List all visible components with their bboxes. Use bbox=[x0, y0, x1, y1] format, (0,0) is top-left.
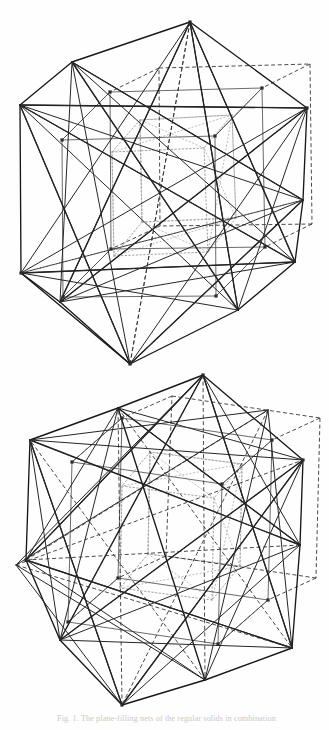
lower-cube-visible-edges bbox=[68, 418, 272, 644]
cube-hidden-edge bbox=[310, 64, 312, 224]
lower-inner-dodecahedron-dotted bbox=[120, 452, 242, 600]
cube-hidden-edge bbox=[166, 556, 316, 578]
icosahedron-edge bbox=[20, 105, 21, 273]
vertex-marker bbox=[128, 362, 131, 365]
icosahedron-chord bbox=[16, 565, 205, 680]
icosahedron-chord bbox=[72, 62, 303, 200]
vertex-marker bbox=[120, 416, 123, 419]
inner-chord bbox=[140, 120, 204, 148]
vertex-marker bbox=[260, 86, 263, 89]
lower-polyhedron-svg bbox=[0, 368, 329, 713]
inner-solid-edge bbox=[112, 120, 140, 152]
inner-solid-edge bbox=[114, 222, 142, 256]
inner-solid-edge bbox=[212, 498, 214, 600]
vertex-marker bbox=[108, 90, 111, 93]
figure-caption: Fig. 1. The plane-filling nets of the re… bbox=[14, 714, 319, 724]
icosahedron-chord bbox=[20, 105, 307, 108]
icosahedron-edge bbox=[300, 460, 303, 545]
vertex-marker bbox=[213, 134, 216, 137]
inner-chord bbox=[214, 498, 240, 566]
icosahedron-hidden-chord bbox=[122, 410, 268, 705]
vertex-marker bbox=[270, 438, 273, 441]
cube-visible-edge bbox=[62, 136, 215, 140]
cube-hidden-edge bbox=[159, 68, 160, 226]
inner-chord bbox=[212, 464, 242, 600]
icosahedron-edge bbox=[130, 310, 238, 364]
icosahedron-edge bbox=[21, 273, 130, 364]
icosahedron-edge bbox=[72, 22, 190, 62]
inner-solid-edge bbox=[204, 148, 208, 252]
cube-visible-edge bbox=[110, 88, 262, 92]
vertex-marker bbox=[220, 482, 223, 485]
vertex-marker bbox=[216, 642, 219, 645]
icosahedron-chord bbox=[26, 375, 203, 560]
vertex-marker bbox=[60, 138, 63, 141]
vertex-marker bbox=[109, 247, 112, 250]
icosahedron-edge bbox=[26, 440, 30, 560]
icosahedron-chord bbox=[118, 408, 300, 545]
upper-polyhedron-svg bbox=[0, 0, 329, 368]
cube-hidden-edge bbox=[272, 418, 320, 440]
icosahedron-chord bbox=[26, 560, 205, 680]
icosahedron-chord bbox=[122, 545, 300, 705]
vertex-marker bbox=[305, 106, 308, 109]
icosahedron-chord bbox=[238, 108, 307, 310]
icosahedron-chord bbox=[60, 62, 72, 302]
vertex-marker bbox=[66, 620, 69, 623]
cube-hidden-edge bbox=[172, 396, 320, 418]
figure-page: Fig. 1. The plane-filling nets of the re… bbox=[0, 0, 329, 730]
vertex-marker bbox=[301, 458, 304, 461]
lower-icosahedron-edges bbox=[16, 375, 303, 705]
inner-chord bbox=[140, 120, 142, 222]
icosahedron-chord bbox=[72, 62, 295, 262]
icosahedron-hidden-chord bbox=[118, 408, 292, 648]
vertex-marker bbox=[266, 598, 269, 601]
vertex-marker bbox=[24, 558, 27, 561]
cube-hidden-edge bbox=[160, 224, 312, 226]
cube-visible-edge bbox=[62, 140, 63, 297]
vertex-marker bbox=[201, 373, 204, 376]
lower-cube-hidden-edges bbox=[118, 396, 320, 600]
cube-hidden-edge bbox=[159, 64, 310, 68]
icosahedron-edge bbox=[292, 545, 300, 648]
vertex-marker bbox=[188, 20, 191, 23]
vertex-marker bbox=[214, 294, 217, 297]
vertex-marker bbox=[120, 703, 123, 706]
icosahedron-edge bbox=[20, 62, 72, 105]
icosahedron-edge bbox=[122, 680, 205, 705]
figure-caption-strip: Fig. 1. The plane-filling nets of the re… bbox=[0, 714, 329, 730]
icosahedron-edge bbox=[60, 375, 203, 640]
icosahedron-chord bbox=[20, 105, 238, 310]
lower-polyhedron-figure bbox=[0, 368, 329, 713]
icosahedron-chord bbox=[60, 22, 190, 302]
icosahedron-edge bbox=[60, 640, 122, 705]
icosahedron-hidden-chord bbox=[130, 22, 190, 364]
icosahedron-edge bbox=[190, 22, 307, 108]
icosahedron-chord bbox=[203, 375, 300, 545]
cube-visible-edge bbox=[63, 296, 216, 297]
vertex-marker bbox=[116, 576, 119, 579]
icosahedron-edge bbox=[205, 648, 292, 680]
vertex-marker bbox=[263, 245, 266, 248]
icosahedron-chord bbox=[30, 410, 268, 440]
inner-chord bbox=[240, 464, 242, 566]
icosahedron-chord bbox=[130, 200, 303, 364]
upper-polyhedron-figure bbox=[0, 0, 329, 368]
upper-cube-hidden-edges bbox=[110, 64, 312, 249]
icosahedron-chord bbox=[21, 273, 238, 310]
icosahedron-edge bbox=[203, 375, 303, 460]
icosahedron-edge bbox=[295, 200, 303, 262]
icosahedron-edge bbox=[118, 375, 203, 408]
cube-visible-edge bbox=[262, 88, 265, 247]
icosahedron-chord bbox=[60, 640, 292, 648]
vertex-marker bbox=[61, 295, 64, 298]
icosahedron-edge bbox=[30, 408, 118, 440]
cube-hidden-edge bbox=[316, 418, 320, 578]
cube-hidden-edge bbox=[262, 64, 310, 88]
cube-hidden-edge bbox=[265, 224, 312, 247]
icosahedron-edge bbox=[303, 108, 307, 200]
vertex-marker bbox=[70, 460, 73, 463]
cube-visible-edge bbox=[110, 92, 111, 249]
inner-solid-edge bbox=[114, 252, 208, 256]
vertex-marker bbox=[19, 271, 22, 274]
